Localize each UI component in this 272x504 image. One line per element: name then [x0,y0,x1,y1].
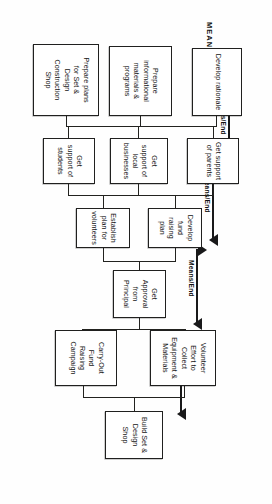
node-develop-fund-raising-plan[interactable]: Develop fund raising plan [148,208,202,248]
node-line: Effort to [188,345,197,370]
node-line: informational [141,60,150,102]
node-line: Get [149,288,158,300]
node-line: Develop rationale [212,54,221,111]
node-line: Volunteer [197,343,206,374]
node-line: Design [61,69,70,92]
node-volunteer-effort-collect[interactable]: Volunteer Effort to Collect Equipment & … [150,330,216,386]
node-line: Carry-Out [95,342,104,374]
node-line: programs [122,66,131,97]
node-line: Shop [42,72,51,89]
node-line: Design Shop [120,415,139,455]
arrow-down-icon [193,318,202,330]
node-build-set-design-shop[interactable]: Build Set & Design Shop [105,411,163,459]
node-line: Get [148,155,157,167]
node-line: Principal [121,280,130,308]
connector [134,397,135,411]
node-line: Get support [213,142,222,180]
node-get-support-local-businesses[interactable]: Get support of local businesses [110,138,168,184]
node-line: Get [74,155,83,167]
node-line: Prepare plans [80,57,89,102]
connector [138,126,139,138]
node-get-support-students[interactable]: Get support of students [43,138,95,184]
node-line: for Set & [71,66,80,94]
connector [66,126,217,127]
node-carry-out-fund-raising-campaign[interactable]: Carry-Out Fund Raising Campaign [55,330,117,386]
node-line: Construction [52,60,61,101]
node-establish-plan-volunteers[interactable]: Establish plan for volunteers [76,208,130,248]
connector [103,248,104,262]
node-line: Campaign [67,342,76,375]
node-line: Collect [178,347,187,369]
connector [175,195,176,208]
node-line: Prepare [150,68,159,94]
node-line: Materials [159,343,168,373]
node-line: local [130,154,139,169]
node-line: Fund [86,350,95,367]
node-line: fund raising [166,212,185,244]
means-end-flowchart: MEANS Means/End Means/End Means/End Mean… [0,0,272,504]
node-line: Establish [108,213,117,243]
means-end-label: Means/End [188,260,195,297]
node-get-support-parents[interactable]: Get support of parents [187,138,239,184]
node-line: Equipment & [169,337,178,379]
marker-stem [196,249,198,325]
connector [68,195,214,196]
node-line: of parents [204,145,213,177]
connector [175,248,176,262]
node-line: from [130,287,139,302]
arrow-down-icon [177,408,186,420]
node-prepare-informational[interactable]: Prepare informational materials & progra… [109,46,172,116]
node-line: volunteers [89,211,98,245]
node-line: support of [139,145,148,177]
diagram-canvas: MEANS Means/End Means/End Means/End Mean… [0,0,272,504]
means-end-marker-3: Means/End [178,244,212,330]
node-line: materials & [131,63,140,99]
node-line: Develop [184,215,193,242]
node-line: support of [64,145,73,177]
node-line: plan for [98,216,107,240]
node-develop-rationale[interactable]: Develop rationale [192,48,242,116]
node-line: students [55,147,64,174]
connector [103,195,104,208]
node-get-approval-from-principal[interactable]: Get Approval from Principal [113,270,166,318]
node-line: businesses [120,143,129,179]
connector [68,126,69,138]
node-line: Raising [77,346,86,370]
node-line: plan [156,221,165,235]
node-line: Approval [140,280,149,309]
connector [139,261,140,270]
node-line: Build Set & [139,417,148,453]
connector [213,126,214,138]
node-prepare-plans-set-design[interactable]: Prepare plans for Set & Design Construct… [33,44,99,116]
